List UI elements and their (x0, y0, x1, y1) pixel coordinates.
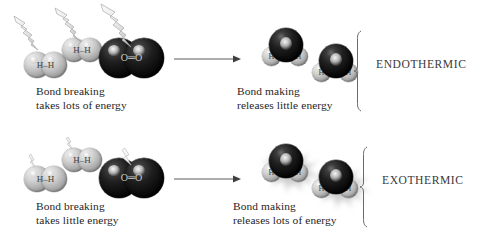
caption-line-1: Bond breaking (36, 85, 105, 97)
reaction-arrow-right (174, 174, 242, 184)
exothermic-left-caption: Bond breaking takes little energy (36, 200, 119, 227)
caption-line-1: Bond making (233, 200, 296, 212)
reaction-arrow-right (174, 54, 242, 64)
energy-bolt-in-icon (12, 14, 52, 60)
energy-spark-in-icon (63, 137, 76, 151)
product-water-molecule-1: H H (262, 28, 310, 70)
hydrogen-bond-label: H–H (24, 60, 67, 70)
caption-line-2: takes lots of energy (36, 99, 127, 113)
hydrogen-bond-label: H–H (24, 174, 67, 184)
oxygen-atom (319, 160, 353, 194)
oxygen-atom (269, 28, 303, 62)
energy-spark-in-icon (25, 154, 39, 170)
reactant-oxygen-molecule: O═O (99, 158, 173, 198)
caption-line-1: Bond breaking (36, 200, 105, 212)
endothermic-left-caption: Bond breaking takes lots of energy (36, 85, 127, 112)
exothermic-row: H–H H–H (0, 118, 493, 237)
energy-bolt-in-icon (97, 2, 141, 58)
hydrogen-bond-label: H–H (62, 155, 102, 165)
caption-line-1: Bond making (237, 85, 300, 97)
exothermic-brace (358, 146, 370, 228)
oxygen-atom (319, 44, 353, 78)
endothermic-label: ENDOTHERMIC (376, 58, 466, 71)
exothermic-label: EXOTHERMIC (382, 174, 464, 187)
caption-line-2: releases little energy (237, 99, 333, 113)
caption-line-2: releases lots of energy (233, 214, 337, 228)
diagram-canvas: H–H H–H (0, 0, 493, 237)
energy-spark-in-icon (117, 148, 135, 168)
endothermic-right-caption: Bond making releases little energy (237, 85, 333, 112)
product-water-molecule-2: H H (312, 160, 360, 202)
caption-line-2: takes little energy (36, 214, 119, 228)
oxygen-bond-label: O═O (99, 172, 164, 184)
endothermic-row: H–H H–H (0, 0, 493, 118)
endothermic-brace (352, 30, 364, 112)
exothermic-right-caption: Bond making releases lots of energy (233, 200, 337, 227)
energy-bolt-in-icon (52, 6, 92, 50)
